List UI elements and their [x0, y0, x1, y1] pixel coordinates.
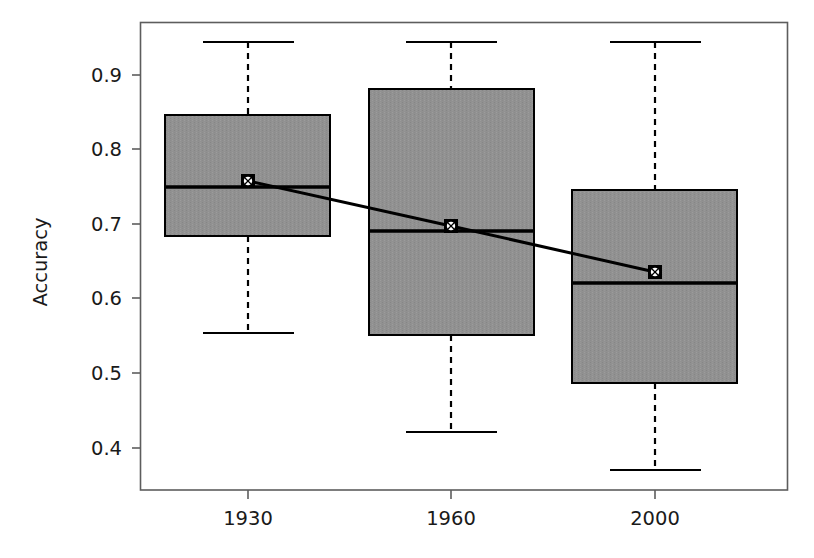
y-tick-label-3: 0.6: [91, 287, 122, 310]
box-2000: [572, 190, 737, 383]
x-axis-tick-labels: 1930 1960 2000: [223, 507, 680, 530]
mean-marker-1960: [444, 219, 458, 233]
mean-marker-1930: [241, 174, 255, 188]
y-tick-label-5: 0.4: [91, 437, 122, 460]
x-axis: 1930 1960 2000: [223, 490, 680, 530]
y-axis-tick-labels: 0.9 0.8 0.7 0.6 0.5 0.4: [91, 64, 122, 460]
x-tick-label-1930: 1930: [223, 507, 273, 530]
mean-marker-2000: [648, 265, 662, 279]
y-axis: 0.9 0.8 0.7 0.6 0.5 0.4 Accuracy: [29, 64, 140, 460]
y-axis-title: Accuracy: [29, 217, 52, 306]
y-tick-label-0: 0.9: [91, 64, 122, 87]
y-axis-ticks: [132, 75, 140, 448]
boxplot-figure: 0.9 0.8 0.7 0.6 0.5 0.4 Accuracy 1930 19…: [0, 0, 814, 558]
boxplot-canvas: 0.9 0.8 0.7 0.6 0.5 0.4 Accuracy 1930 19…: [0, 0, 814, 558]
y-tick-label-1: 0.8: [91, 138, 122, 161]
boxplot-group-1960: [369, 42, 534, 432]
x-tick-label-1960: 1960: [426, 507, 476, 530]
boxplot-group-2000: [572, 42, 737, 470]
y-tick-label-2: 0.7: [91, 213, 122, 236]
y-tick-label-4: 0.5: [91, 362, 122, 385]
x-tick-label-2000: 2000: [630, 507, 680, 530]
x-axis-ticks: [248, 490, 655, 499]
